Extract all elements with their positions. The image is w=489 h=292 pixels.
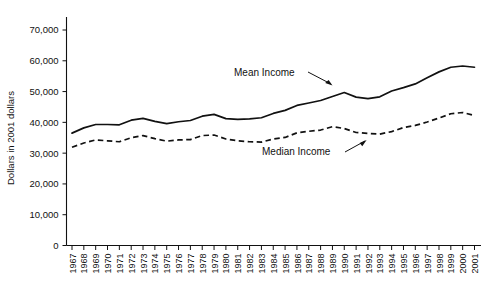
x-tick-label: 1982 — [245, 254, 255, 274]
x-tick-label: 1981 — [233, 254, 243, 274]
x-tick-label: 1984 — [269, 254, 279, 274]
annotation-mean-income-arrowhead — [325, 80, 332, 85]
x-tick-label: 1990 — [340, 254, 350, 274]
x-tick-label: 2000 — [458, 254, 468, 274]
chart-figure: Dollars in 2001 dollars 010,00020,00030,… — [0, 0, 489, 292]
x-tick-label: 1977 — [186, 254, 196, 274]
x-tick-label: 1974 — [150, 254, 160, 274]
x-tick-label: 1996 — [411, 254, 421, 274]
y-tick-label: 60,000 — [29, 55, 58, 66]
annotation-mean-income-label: Mean Income — [234, 67, 295, 78]
x-tick-label: 1976 — [174, 254, 184, 274]
y-tick-label: 20,000 — [29, 178, 58, 189]
y-axis-title: Dollars in 2001 dollars — [5, 91, 16, 185]
x-tick-label: 1994 — [387, 254, 397, 274]
x-tick-label: 1985 — [281, 254, 291, 274]
y-axis-ticks: 010,00020,00030,00040,00050,00060,00070,… — [29, 24, 66, 251]
x-tick-label: 1968 — [79, 254, 89, 274]
y-tick-label: 50,000 — [29, 86, 58, 97]
y-tick-label: 0 — [53, 240, 58, 251]
x-tick-label: 1971 — [115, 254, 125, 274]
x-axis-ticks: 1967196819691970197119721973197419751976… — [68, 246, 481, 274]
x-tick-label: 1986 — [293, 254, 303, 274]
x-tick-label: 1970 — [103, 254, 113, 274]
x-tick-label: 1972 — [127, 254, 137, 274]
y-tick-label: 40,000 — [29, 117, 58, 128]
income-line-chart: Dollars in 2001 dollars 010,00020,00030,… — [0, 0, 489, 292]
x-tick-label: 1991 — [352, 254, 362, 274]
x-tick-label: 1995 — [399, 254, 409, 274]
x-tick-label: 1979 — [210, 254, 220, 274]
x-tick-label: 1997 — [423, 254, 433, 274]
annotation-median-income-label: Median Income — [262, 146, 331, 157]
x-tick-label: 1992 — [364, 254, 374, 274]
x-tick-label: 1967 — [68, 254, 78, 274]
y-tick-label: 30,000 — [29, 148, 58, 159]
x-tick-label: 1998 — [435, 254, 445, 274]
x-tick-label: 1975 — [162, 254, 172, 274]
series-line-median-income — [72, 113, 475, 148]
x-tick-label: 1987 — [304, 254, 314, 274]
x-tick-label: 1993 — [375, 254, 385, 274]
x-tick-label: 2001 — [470, 254, 480, 274]
x-tick-label: 1989 — [328, 254, 338, 274]
x-tick-label: 1978 — [198, 254, 208, 274]
annotation-median-income-arrowhead — [360, 140, 367, 146]
x-tick-label: 1983 — [257, 254, 267, 274]
x-tick-label: 1973 — [139, 254, 149, 274]
y-tick-label: 10,000 — [29, 209, 58, 220]
x-tick-label: 1988 — [316, 254, 326, 274]
x-tick-label: 1969 — [91, 254, 101, 274]
x-tick-label: 1980 — [221, 254, 231, 274]
x-tick-label: 1999 — [446, 254, 456, 274]
y-tick-label: 70,000 — [29, 24, 58, 35]
